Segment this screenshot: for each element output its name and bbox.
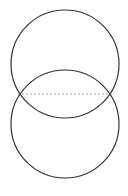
top-circle xyxy=(11,10,119,118)
overlapping-circles-diagram xyxy=(0,0,128,196)
bottom-circle xyxy=(11,70,119,178)
